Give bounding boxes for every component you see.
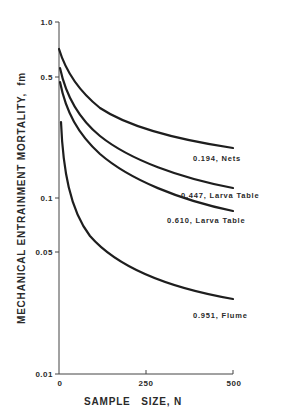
y-tick-0.5: 0.5: [40, 73, 53, 82]
x-ticks: 0 250 500: [58, 370, 242, 388]
x-tick-0: 0: [58, 379, 63, 388]
curve-nets: [59, 49, 233, 148]
series-label-larva-0447: 0.447, Larva Table: [181, 191, 259, 200]
curve-flume: [61, 122, 233, 299]
series-label-flume: 0.951, Flume: [193, 311, 248, 320]
x-tick-500: 500: [227, 379, 242, 388]
y-tick-1.0: 1.0: [40, 18, 53, 27]
x-axis-label: SAMPLE SIZE, N: [84, 396, 182, 407]
series-label-nets: 0.194, Nets: [193, 154, 241, 163]
y-tick-0.01: 0.01: [35, 370, 53, 379]
y-tick-0.05: 0.05: [35, 248, 53, 257]
series-label-larva-0610: 0.610, Larva Table: [167, 216, 245, 225]
chart: 1.0 0.5 0.1 0.05 0.01 0 250 500 SAMPLE S…: [0, 0, 282, 418]
y-axis-label: MECHANICAL ENTRAINMENT MORTALITY, fm: [16, 72, 27, 324]
y-ticks: 1.0 0.5 0.1 0.05 0.01: [35, 18, 59, 379]
y-tick-0.1: 0.1: [40, 194, 53, 203]
x-tick-250: 250: [139, 379, 154, 388]
